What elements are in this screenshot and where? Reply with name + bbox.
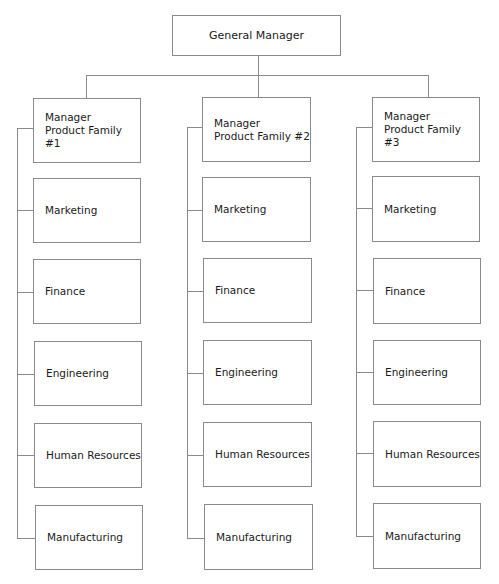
connector xyxy=(17,455,34,456)
connector-col3-drop xyxy=(428,75,429,98)
manager-title: Manager xyxy=(384,110,479,123)
department-box: Human Resources xyxy=(203,422,312,487)
department-box: Engineering xyxy=(203,340,312,405)
connector xyxy=(356,453,373,454)
department-label: Finance xyxy=(45,285,85,298)
department-box: Manufacturing xyxy=(35,505,143,570)
connector xyxy=(356,536,373,537)
department-label: Finance xyxy=(385,285,425,298)
department-label: Human Resources xyxy=(215,448,310,461)
department-label: Marketing xyxy=(384,203,436,216)
column-2-spine xyxy=(187,127,188,539)
department-box: Engineering xyxy=(34,341,142,406)
department-box: Marketing xyxy=(33,178,141,243)
department-label: Human Resources xyxy=(46,449,141,462)
department-label: Marketing xyxy=(214,203,266,216)
manager-subtitle: Product Family #1 xyxy=(45,124,140,150)
column-3-spine xyxy=(356,127,357,537)
column-1-spine xyxy=(17,128,18,539)
connector xyxy=(17,210,33,211)
department-label: Manufacturing xyxy=(385,530,461,543)
connector xyxy=(17,374,34,375)
department-box: Human Resources xyxy=(373,421,481,487)
manager-subtitle: Product Family #2 xyxy=(214,130,310,143)
department-label: Engineering xyxy=(215,366,278,379)
connector xyxy=(187,538,204,539)
department-box: Manufacturing xyxy=(204,504,313,570)
connector xyxy=(17,538,35,539)
department-box: Finance xyxy=(373,258,481,324)
connector xyxy=(187,373,203,374)
connector-root-down xyxy=(258,56,259,97)
department-box: Engineering xyxy=(373,340,481,405)
general-manager-box: General Manager xyxy=(172,15,341,56)
connector xyxy=(356,290,373,291)
department-box: Human Resources xyxy=(34,423,142,488)
connector xyxy=(17,128,33,129)
department-box: Marketing xyxy=(202,177,311,242)
org-chart: General Manager Manager Product Family #… xyxy=(0,0,499,584)
department-label: Human Resources xyxy=(385,448,480,461)
connector-horizontal-bar xyxy=(86,75,429,76)
department-box: Finance xyxy=(203,258,312,323)
department-label: Engineering xyxy=(46,367,109,380)
connector xyxy=(187,210,202,211)
connector xyxy=(356,127,372,128)
connector xyxy=(17,292,33,293)
connector xyxy=(356,208,372,209)
connector xyxy=(187,455,203,456)
manager-title: Manager xyxy=(45,111,140,124)
general-manager-label: General Manager xyxy=(209,29,304,42)
manager-box-1: Manager Product Family #1 xyxy=(33,98,141,163)
department-label: Marketing xyxy=(45,204,97,217)
department-label: Manufacturing xyxy=(216,531,292,544)
connector xyxy=(356,372,373,373)
department-label: Engineering xyxy=(385,366,448,379)
department-label: Finance xyxy=(215,284,255,297)
connector xyxy=(187,127,202,128)
department-box: Manufacturing xyxy=(373,503,481,569)
connector xyxy=(187,291,203,292)
department-box: Marketing xyxy=(372,176,480,242)
manager-subtitle: Product Family #3 xyxy=(384,123,479,149)
department-label: Manufacturing xyxy=(47,531,123,544)
department-box: Finance xyxy=(33,259,141,324)
connector-col1-drop xyxy=(86,75,87,98)
manager-box-3: Manager Product Family #3 xyxy=(372,97,480,162)
manager-title: Manager xyxy=(214,117,310,130)
manager-box-2: Manager Product Family #2 xyxy=(202,97,311,162)
